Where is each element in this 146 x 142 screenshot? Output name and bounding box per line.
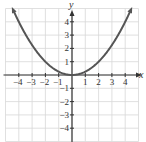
y-tick-label: 3 <box>65 30 70 40</box>
x-tick-label: 3 <box>110 77 115 87</box>
x-tick-label: −4 <box>13 77 23 87</box>
x-tick-label: 2 <box>96 77 101 87</box>
x-tick-label: −3 <box>26 77 36 87</box>
x-tick-label: 4 <box>123 77 128 87</box>
parabola-graph: −4−3−2−11234−4−3−2−11234 x y <box>0 0 146 142</box>
y-tick-label: −2 <box>59 97 69 107</box>
y-tick-label: −4 <box>59 123 69 133</box>
x-axis-label: x <box>138 69 144 80</box>
y-axis-label: y <box>68 0 74 10</box>
y-tick-label: 1 <box>65 57 70 67</box>
x-tick-label: −2 <box>40 77 50 87</box>
x-tick-label: 1 <box>83 77 88 87</box>
y-tick-label: −3 <box>59 110 69 120</box>
y-tick-label: −1 <box>59 83 69 93</box>
y-tick-label: 2 <box>65 43 70 53</box>
y-tick-label: 4 <box>65 17 70 27</box>
